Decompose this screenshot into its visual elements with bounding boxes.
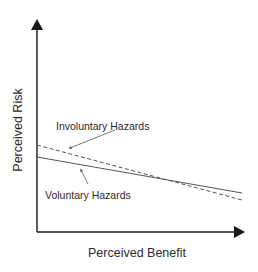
voluntary-pointer-arrow-icon — [81, 170, 88, 184]
voluntary-hazards-line — [37, 157, 242, 193]
y-axis-arrow-icon — [31, 19, 43, 30]
risk-benefit-diagram: Involuntary Hazards Voluntary Hazards Pe… — [0, 0, 258, 272]
x-axis-arrow-icon — [234, 226, 245, 238]
involuntary-pointer-arrow-icon — [70, 130, 115, 148]
y-axis-label: Perceived Risk — [11, 88, 25, 172]
x-axis-label: Perceived Benefit — [88, 246, 187, 260]
involuntary-hazards-label: Involuntary Hazards — [56, 120, 149, 132]
voluntary-hazards-label: Voluntary Hazards — [45, 189, 131, 201]
